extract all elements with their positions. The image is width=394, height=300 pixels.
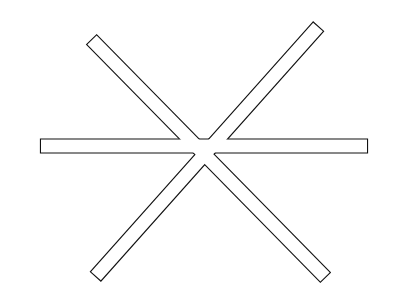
bar-fills: [41, 23, 367, 282]
asterisk-diagram: [0, 0, 394, 300]
asterisk-figure: [0, 0, 394, 300]
